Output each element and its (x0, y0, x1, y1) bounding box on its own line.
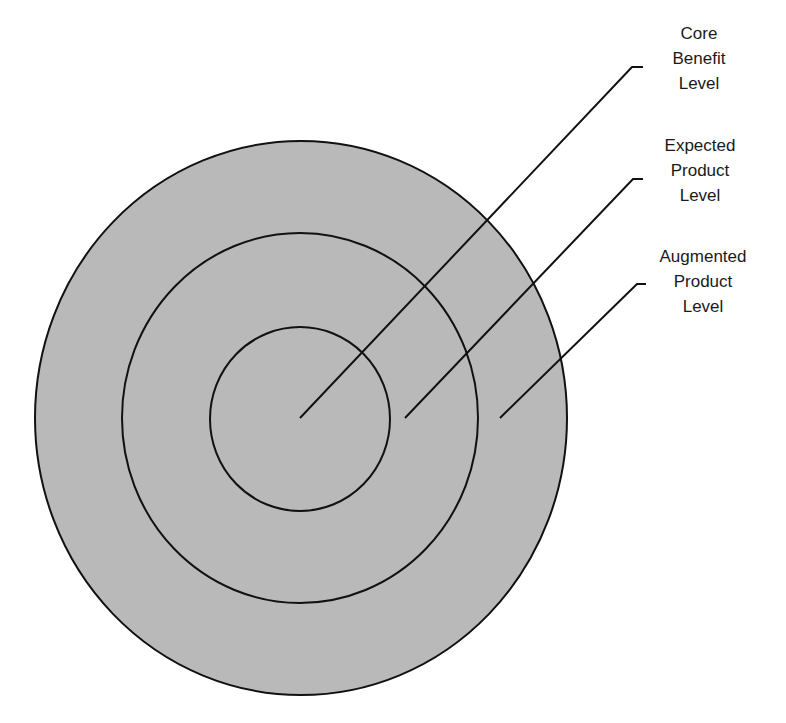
label-line: Level (625, 183, 775, 208)
label-line: Product (628, 269, 778, 294)
label-core-benefit-level: Core Benefit Level (624, 21, 774, 96)
label-line: Core (624, 21, 774, 46)
label-line: Level (624, 71, 774, 96)
label-line: Level (628, 294, 778, 319)
label-expected-product-level: Expected Product Level (625, 133, 775, 208)
label-line: Expected (625, 133, 775, 158)
label-line: Product (625, 158, 775, 183)
product-levels-diagram (0, 0, 786, 723)
label-augmented-product-level: Augmented Product Level (628, 244, 778, 319)
label-line: Augmented (628, 244, 778, 269)
label-line: Benefit (624, 46, 774, 71)
